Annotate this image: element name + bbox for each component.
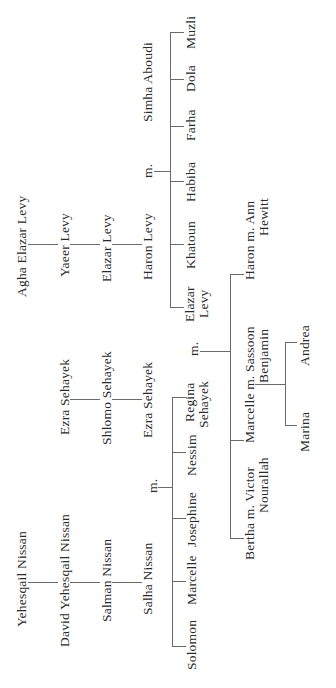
children-bracket bbox=[285, 342, 286, 426]
person-dola: Dola bbox=[184, 65, 198, 92]
child-tick bbox=[170, 32, 184, 33]
connector-line bbox=[255, 384, 285, 385]
person-simha-aboudi: Simha Aboudi bbox=[141, 42, 155, 122]
person-nessim: Nessim bbox=[185, 434, 199, 476]
person-bertha-line2: Nourallah bbox=[257, 457, 271, 513]
family-tree-diagram: Agha Elazar Levy Yaeer Levy Elazar Levy … bbox=[0, 0, 336, 688]
person-regina-sehayek-line2: Sehayek bbox=[197, 381, 211, 428]
person-andrea: Andrea bbox=[298, 325, 312, 366]
person-ezra-sehayek-jr: Ezra Sehayek bbox=[141, 362, 155, 438]
person-josephine: Josephine bbox=[185, 492, 199, 547]
connector-line bbox=[200, 351, 230, 352]
connector-line bbox=[70, 399, 100, 400]
person-haron-line2: Hewitt bbox=[257, 198, 271, 236]
marriage-marker-levy: m. bbox=[141, 164, 155, 178]
person-muzli: Muzli bbox=[184, 16, 198, 49]
person-bertha-line1: Bertha m. Victor bbox=[243, 467, 257, 560]
child-tick bbox=[285, 342, 297, 343]
connector-line bbox=[154, 171, 170, 172]
person-farha: Farha bbox=[184, 109, 198, 141]
child-tick bbox=[285, 425, 297, 426]
person-david-yehesqail-nissan: David Yehesqail Nissan bbox=[58, 514, 72, 647]
connector-line bbox=[112, 244, 142, 245]
person-yehesqail-nissan: Yehesqail Nissan bbox=[15, 531, 29, 627]
person-marina: Marina bbox=[298, 412, 312, 452]
connector-line bbox=[70, 244, 100, 245]
person-ezra-sehayek-sr: Ezra Sehayek bbox=[58, 359, 72, 435]
marriage-marker-nissan: m. bbox=[146, 479, 160, 493]
child-tick bbox=[170, 79, 184, 80]
children-bracket bbox=[172, 397, 173, 647]
person-elazar-levy-sr: Elazar Levy bbox=[100, 214, 114, 282]
person-marcelle: Marcelle bbox=[185, 555, 199, 605]
person-elazar-levy-jr-line2: Levy bbox=[197, 289, 211, 318]
person-marcelle-line2: Benjamin bbox=[257, 329, 271, 383]
person-yaeer-levy: Yaeer Levy bbox=[58, 213, 72, 277]
connector-line bbox=[112, 399, 142, 400]
person-elazar-levy-jr-line1: Elazar bbox=[183, 286, 197, 322]
child-tick bbox=[170, 181, 184, 182]
person-khatoun: Khatoun bbox=[184, 221, 198, 269]
person-habiba: Habiba bbox=[184, 162, 198, 202]
person-agha-elazar-levy: Agha Elazar Levy bbox=[15, 196, 29, 297]
connector-line bbox=[112, 582, 142, 583]
person-haron-line1: Haron m. Ann bbox=[243, 201, 257, 280]
person-haron-levy: Haron Levy bbox=[141, 213, 155, 280]
connector-line bbox=[158, 487, 172, 488]
person-salha-nissan: Salha Nissan bbox=[141, 542, 155, 615]
connector-line bbox=[28, 244, 58, 245]
child-tick bbox=[170, 244, 184, 245]
marriage-marker-union: m. bbox=[187, 342, 201, 356]
person-solomon: Solomon bbox=[185, 620, 199, 670]
children-bracket bbox=[230, 274, 231, 539]
connector-line bbox=[28, 582, 58, 583]
connector-line bbox=[70, 582, 100, 583]
person-regina-sehayek-line1: Regina bbox=[183, 383, 197, 422]
child-tick bbox=[170, 126, 184, 127]
person-salman-nissan: Salman Nissan bbox=[100, 539, 114, 622]
children-bracket bbox=[170, 32, 171, 308]
